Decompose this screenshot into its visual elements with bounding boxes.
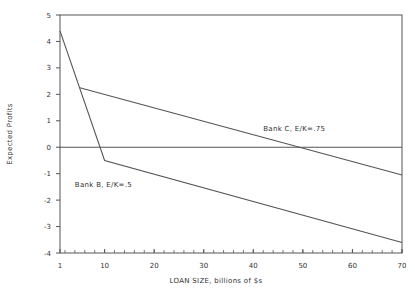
y-tick-label: 4 bbox=[47, 38, 52, 46]
y-tick-label: 3 bbox=[47, 64, 51, 72]
x-tick-label: 20 bbox=[150, 262, 159, 270]
series-line bbox=[60, 31, 402, 243]
y-tick-label: -4 bbox=[44, 250, 52, 258]
annotation-label: Bank C, E/K=.75 bbox=[263, 125, 325, 133]
y-tick-label: 1 bbox=[47, 117, 51, 125]
y-tick-label: 2 bbox=[47, 91, 51, 99]
plot-frame bbox=[60, 15, 402, 253]
x-tick-label: 50 bbox=[298, 262, 307, 270]
line-chart: 543210-1-2-3-4110203040506070Bank C, E/K… bbox=[0, 0, 415, 291]
annotation-label: Bank B, E/K=.5 bbox=[75, 181, 132, 189]
x-tick-label: 40 bbox=[249, 262, 258, 270]
y-tick-label: -2 bbox=[44, 197, 51, 205]
y-axis-title: Expected Profits bbox=[6, 103, 14, 165]
y-tick-label: -3 bbox=[44, 223, 51, 231]
x-tick-label: 70 bbox=[398, 262, 407, 270]
x-tick-label: 10 bbox=[100, 262, 109, 270]
x-axis-title: LOAN SIZE, billions of $s bbox=[170, 277, 263, 285]
x-tick-label: 30 bbox=[199, 262, 208, 270]
series-line bbox=[80, 88, 402, 175]
y-tick-label: 0 bbox=[47, 144, 51, 152]
y-tick-label: -1 bbox=[44, 170, 51, 178]
x-tick-label: 60 bbox=[348, 262, 357, 270]
x-tick-label: 1 bbox=[58, 262, 62, 270]
y-tick-label: 5 bbox=[47, 12, 51, 20]
